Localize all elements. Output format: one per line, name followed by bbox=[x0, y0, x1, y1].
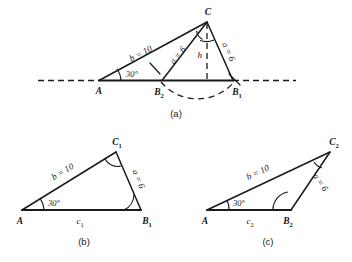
panel-c-vertex-label-C2-sub: 2 bbox=[336, 142, 339, 149]
panel-b-side-label-c: c1 bbox=[76, 216, 83, 228]
angle-label-a-A: 30° bbox=[125, 69, 139, 79]
panel-b-vertex-label-A: A bbox=[16, 216, 23, 226]
panel-b-vertex-label-B1-base: B bbox=[141, 216, 148, 226]
panel-c-angle-arc-A bbox=[227, 200, 229, 210]
vertex-label-a-C: C bbox=[205, 7, 212, 17]
side-label-a-h: h bbox=[198, 50, 203, 60]
panel-c-vertex-label-B2-sub: 2 bbox=[290, 221, 293, 228]
vertex-label-a-B2-base: B bbox=[153, 87, 160, 97]
angle-arc-A bbox=[117, 69, 121, 81]
panel-b-angle-label-A: 30° bbox=[47, 198, 61, 208]
panel-b-vertex-label-C1: C1 bbox=[112, 137, 122, 149]
panel-c-side-label-a: a = 6 bbox=[311, 171, 331, 193]
caption-a: (a) bbox=[170, 108, 182, 119]
panel-b-vertex-label-B1-sub: 1 bbox=[149, 221, 152, 228]
panel-c-side-label-c-sub: 2 bbox=[250, 221, 253, 228]
panel-b-angle-arc-A bbox=[40, 199, 44, 211]
vertex-label-a-B1: B1 bbox=[231, 87, 242, 99]
panel-b-vertex-label-C1-sub: 1 bbox=[119, 142, 122, 149]
vertex-label-a-A: A bbox=[95, 86, 102, 96]
panel-c-vertex-label-C2: C2 bbox=[329, 137, 339, 149]
vertex-label-a-B1-base: B bbox=[231, 87, 238, 97]
panel-c-side-label-b: b = 10 bbox=[245, 162, 271, 181]
panel-b-angle-arc-C1 bbox=[105, 159, 121, 166]
figure-root: A B2 B1 C b = 10 a = 6 a = 6 h 30° (a) bbox=[0, 0, 352, 262]
panel-b: A B1 C1 b = 10 a = 6 c1 30° (b) bbox=[16, 137, 152, 247]
geometry-figure: A B2 B1 C b = 10 a = 6 a = 6 h 30° (a) bbox=[0, 0, 352, 262]
panel-c: A B2 C2 b = 10 a = 6 c2 30° (c) bbox=[201, 137, 339, 247]
panel-c-vertex-label-A: A bbox=[201, 216, 208, 226]
tick-b2 bbox=[150, 63, 160, 74]
panel-b-side-label-a: a = 6 bbox=[130, 168, 147, 190]
side-label-a-a-right: a = 6 bbox=[220, 41, 237, 63]
panel-a: A B2 B1 C b = 10 a = 6 a = 6 h 30° (a) bbox=[38, 7, 296, 119]
angle-arc-C-large bbox=[200, 40, 214, 42]
panel-c-side-label-c: c2 bbox=[246, 216, 253, 228]
vertex-label-a-B2-sub: 2 bbox=[161, 92, 164, 99]
caption-c: (c) bbox=[262, 236, 273, 247]
panel-c-side-b-line bbox=[207, 152, 330, 210]
panel-c-vertex-label-B2: B2 bbox=[282, 216, 293, 228]
side-label-a-b: b = 10 bbox=[128, 43, 154, 63]
vertex-label-a-B2: B2 bbox=[153, 87, 164, 99]
caption-b: (b) bbox=[78, 236, 90, 247]
panel-c-angle-label-A: 30° bbox=[232, 198, 246, 208]
side-label-a-a-left: a = 6 bbox=[168, 44, 188, 66]
panel-c-vertex-label-B2-base: B bbox=[282, 216, 289, 226]
vertex-label-a-B1-sub: 1 bbox=[239, 92, 242, 99]
compass-arc bbox=[161, 82, 234, 99]
panel-b-side-label-c-sub: 1 bbox=[80, 221, 83, 228]
panel-b-angle-arc-B1 bbox=[124, 195, 134, 211]
panel-c-angle-arc-B2 bbox=[273, 192, 288, 210]
panel-b-vertex-label-B1: B1 bbox=[141, 216, 152, 228]
